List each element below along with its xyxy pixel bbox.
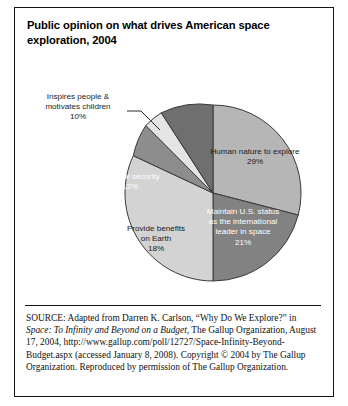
pie-label-no-opinion: No opinion/ don’t know 10% <box>147 77 215 108</box>
figure-container: Public opinion on what drives American s… <box>14 7 334 397</box>
pie-chart: Human nature to explore 29% Maintain U.S… <box>15 52 332 304</box>
source-note: SOURCE: Adapted from Darren K. Carlson, … <box>26 312 321 373</box>
pie-label-national-security: National security 12% <box>89 172 171 192</box>
source-label: SOURCE: <box>26 313 66 323</box>
pie-label-inspires-people: Inspires people & motivates children 10% <box>23 92 133 123</box>
source-divider <box>25 305 321 306</box>
pie-label-maintain-status: Maintain U.S. status as the internationa… <box>191 207 295 248</box>
figure-title: Public opinion on what drives American s… <box>27 18 317 48</box>
source-text-part-1: Adapted from Darren K. Carlson, “Why Do … <box>66 313 297 323</box>
pie-label-provide-benefits: Provide benefits on Earth 18% <box>115 224 197 255</box>
source-publication-title: Space: To Infinity and Beyond on a Budge… <box>26 325 187 335</box>
pie-label-human-nature: Human nature to explore 29% <box>197 147 313 167</box>
